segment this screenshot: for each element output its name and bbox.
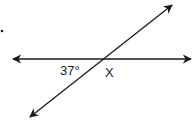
bullet-dot (1, 30, 4, 33)
known-angle-label: 37° (60, 64, 80, 77)
unknown-angle-label: X (105, 66, 114, 79)
angle-diagram (0, 0, 196, 126)
diagonal-line (30, 5, 172, 117)
